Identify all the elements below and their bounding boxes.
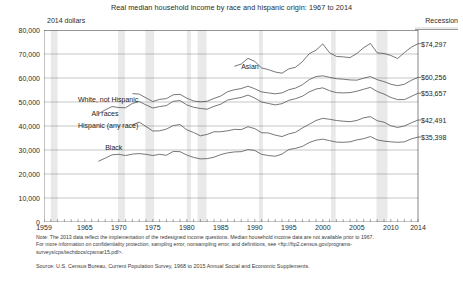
y-tick-label: 60,000	[0, 75, 40, 82]
y-tick-label: 50,000	[0, 99, 40, 106]
footnote-line-2: For more information on confidentiality …	[36, 241, 460, 248]
recession-legend-swatch	[415, 27, 458, 30]
units-label: 2014 dollars	[47, 17, 85, 24]
y-tick-label: 70,000	[0, 51, 40, 58]
series-line-hispanic-any-race	[132, 117, 418, 137]
end-value-label: $35,398	[421, 134, 446, 141]
x-tick-label: 2014	[398, 224, 438, 231]
series-label-asian: Asian	[241, 63, 259, 70]
end-value-label: $42,491	[421, 117, 446, 124]
footnote-block: Note: The 2013 data reflect the implemen…	[36, 234, 460, 256]
page-title: Real median household income by race and…	[0, 3, 463, 12]
footnote-line-3: surveys/cps/techdocs/cpsmar15.pdf>.	[36, 249, 460, 256]
end-value-label: $74,297	[421, 40, 446, 47]
y-tick-label: 40,000	[0, 123, 40, 130]
y-tick-label: 80,000	[0, 27, 40, 34]
x-tick-label: 1959	[24, 224, 64, 231]
end-value-label: $60,256	[421, 74, 446, 81]
end-value-label: $53,657	[421, 90, 446, 97]
chart-page: Real median household income by race and…	[0, 0, 463, 284]
series-label-black: Black	[105, 144, 122, 151]
footnote-line-1: Note: The 2013 data reflect the implemen…	[36, 234, 460, 241]
series-label-white-not-hispanic: White, not Hispanic	[78, 96, 138, 103]
y-tick-label: 30,000	[0, 147, 40, 154]
series-label-all-races: All races	[92, 110, 119, 117]
series-label-hispanic-any-race: Hispanic (any race)	[78, 122, 138, 129]
recession-legend-label: Recession	[425, 17, 458, 24]
series-line-white-not-hispanic	[132, 76, 418, 102]
y-tick-label: 10,000	[0, 195, 40, 202]
y-tick-label: 20,000	[0, 171, 40, 178]
source-line: Source: U.S. Census Bureau, Current Popu…	[36, 263, 310, 269]
